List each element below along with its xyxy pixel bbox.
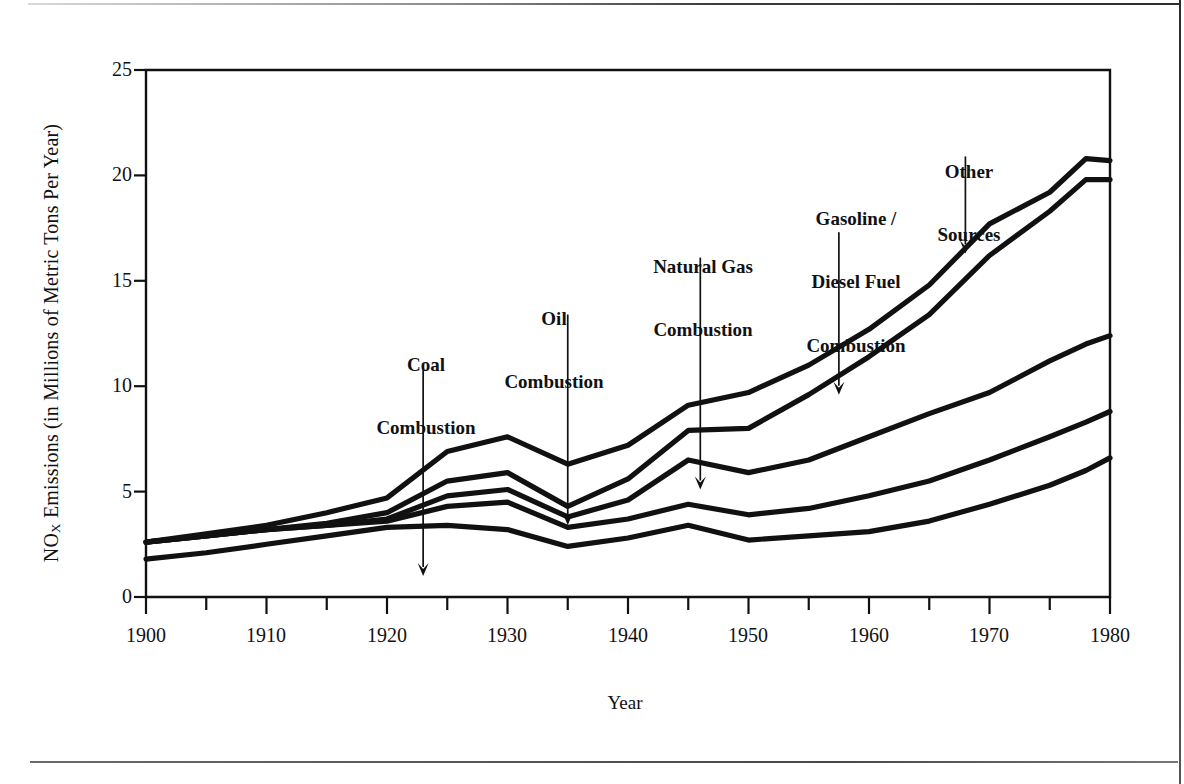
annotation-line: Combustion xyxy=(476,371,632,392)
series-line xyxy=(146,458,1110,559)
y-axis-title-rest: Emissions (in Millions of Metric Tons Pe… xyxy=(40,124,62,524)
y-axis-title-subscript: X xyxy=(48,523,63,533)
y-axis-title-nox: NO xyxy=(40,533,62,562)
y-axis-ticks xyxy=(134,70,146,597)
nox-emissions-line-chart: 25 20 15 10 5 0 1900 1910 1920 1930 1940… xyxy=(0,0,1184,784)
x-tick-label: 1900 xyxy=(101,624,191,647)
x-tick-label: 1970 xyxy=(944,624,1034,647)
y-tick-label: 15 xyxy=(88,269,132,292)
x-axis-title: Year xyxy=(525,692,725,714)
x-tick-label: 1920 xyxy=(342,624,432,647)
y-tick-label: 0 xyxy=(88,585,132,608)
x-tick-label: 1930 xyxy=(462,624,552,647)
x-tick-label: 1960 xyxy=(824,624,914,647)
y-tick-label: 20 xyxy=(88,163,132,186)
annotation-line: Oil xyxy=(476,308,632,329)
annotation-oil-combustion: Oil Combustion xyxy=(476,265,632,435)
annotation-line: Combustion xyxy=(763,335,949,356)
y-tick-label: 25 xyxy=(88,58,132,81)
x-tick-label: 1940 xyxy=(583,624,673,647)
annotation-line: Sources xyxy=(895,224,1043,245)
x-axis-ticks xyxy=(146,597,1110,614)
annotation-line: Other xyxy=(895,161,1043,182)
x-tick-label: 1980 xyxy=(1065,624,1155,647)
x-tick-label: 1950 xyxy=(703,624,793,647)
y-tick-label: 5 xyxy=(88,480,132,503)
y-axis-title: NOX Emissions (in Millions of Metric Ton… xyxy=(40,63,64,623)
x-tick-label: 1910 xyxy=(221,624,311,647)
y-tick-label: 10 xyxy=(88,374,132,397)
scanned-page: 25 20 15 10 5 0 1900 1910 1920 1930 1940… xyxy=(0,0,1184,784)
annotation-other-sources: Other Sources xyxy=(895,118,1043,288)
